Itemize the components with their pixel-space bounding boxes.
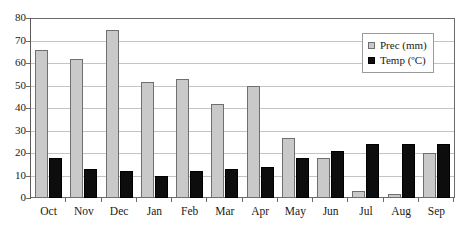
x-axis-tick — [102, 198, 137, 203]
bar-temp — [261, 167, 274, 198]
bar-group — [207, 19, 242, 198]
bar-prec — [70, 59, 83, 198]
bar-temp — [84, 169, 97, 198]
bar-group — [31, 19, 66, 198]
bar-temp — [190, 171, 203, 198]
bar-temp — [49, 158, 62, 198]
x-axis-tick — [172, 198, 207, 203]
bar-group — [102, 19, 137, 198]
bar-temp — [437, 144, 450, 198]
y-axis-tick-label: 80 — [0, 12, 26, 23]
bar-group — [66, 19, 101, 198]
legend-label-temp: Temp (ºC) — [380, 55, 426, 66]
y-axis-tick-label: 50 — [0, 80, 26, 91]
bar-temp — [402, 144, 415, 198]
legend-item-temp: Temp (ºC) — [368, 53, 427, 68]
bar-prec — [247, 86, 260, 198]
bar-temp — [120, 171, 133, 198]
bar-prec — [211, 104, 224, 198]
x-axis-tick-label: Jun — [313, 206, 348, 218]
bar-group — [137, 19, 172, 198]
x-axis-tick-label: Aug — [384, 206, 419, 218]
x-axis-tick — [243, 198, 278, 203]
bar-prec — [141, 82, 154, 198]
x-axis-tick-label: Sep — [419, 206, 454, 218]
x-axis-tick — [419, 198, 454, 203]
x-axis-tick-label: Feb — [172, 206, 207, 218]
x-axis-tick — [137, 198, 172, 203]
x-axis-tick-label: Mar — [207, 206, 242, 218]
y-axis-tick-label: 70 — [0, 35, 26, 46]
y-axis-tick-label: 20 — [0, 147, 26, 158]
bar-group — [313, 19, 348, 198]
x-axis-tick-label: Jul — [348, 206, 383, 218]
bar-prec — [35, 50, 48, 198]
bar-temp — [225, 169, 238, 198]
bar-temp — [296, 158, 309, 198]
x-axis-labels: OctNovDecJanFebMarAprMayJunJulAugSep — [31, 206, 454, 218]
bar-temp — [155, 176, 168, 198]
x-axis-ticks — [31, 198, 454, 203]
x-axis-tick — [278, 198, 313, 203]
x-axis-tick — [31, 198, 66, 203]
x-axis-tick — [207, 198, 242, 203]
bar-prec — [352, 191, 365, 198]
x-axis-tick-label: Dec — [102, 206, 137, 218]
x-axis-tick-label: Nov — [66, 206, 101, 218]
bar-prec — [282, 138, 295, 198]
y-axis-tick-label: 60 — [0, 57, 26, 68]
legend-label-prec: Prec (mm) — [380, 40, 427, 51]
climate-bar-chart: 01020304050607080 OctNovDecJanFebMarAprM… — [0, 0, 464, 235]
x-axis-tick-label: May — [278, 206, 313, 218]
y-axis-tick-label: 30 — [0, 125, 26, 136]
x-axis-tick — [348, 198, 383, 203]
bar-prec — [317, 158, 330, 198]
y-axis-tick-label: 40 — [0, 102, 26, 113]
x-axis-tick — [313, 198, 348, 203]
x-axis-tick-label: Apr — [243, 206, 278, 218]
bar-group — [278, 19, 313, 198]
bar-prec — [106, 30, 119, 198]
bar-temp — [331, 151, 344, 198]
bar-prec — [176, 79, 189, 198]
y-axis-tick-label: 0 — [0, 192, 26, 203]
temp-swatch-icon — [368, 57, 375, 64]
bar-group — [172, 19, 207, 198]
bar-group — [243, 19, 278, 198]
legend-item-prec: Prec (mm) — [368, 38, 427, 53]
x-axis-tick-label: Oct — [31, 206, 66, 218]
chart-legend: Prec (mm) Temp (ºC) — [362, 33, 434, 73]
bar-temp — [366, 144, 379, 198]
bar-prec — [423, 153, 436, 198]
y-axis-tick-label: 10 — [0, 170, 26, 181]
x-axis-tick — [384, 198, 419, 203]
prec-swatch-icon — [368, 42, 375, 49]
x-axis-tick-label: Jan — [137, 206, 172, 218]
x-axis-tick — [66, 198, 101, 203]
